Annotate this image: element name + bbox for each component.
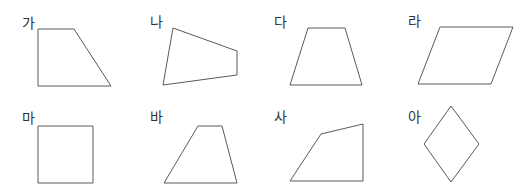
figure-a-rhombus [424,106,479,182]
figure-ma-square [38,126,93,183]
figure-label-sa: 사 [274,110,287,124]
figure-da-trapezoid [290,28,362,85]
figure-label-ma: 마 [22,111,35,125]
figure-ga-trapezoid [38,29,111,86]
figure-label-na: 나 [150,15,163,29]
figure-ra-parallelogram [418,27,513,84]
figure-na-quadrilateral [163,28,237,85]
figure-label-da: 다 [274,15,287,29]
figure-sa-quadrilateral [290,124,363,181]
figure-label-ra: 라 [408,14,421,28]
figure-label-a: 아 [408,110,421,124]
figure-label-ga: 가 [22,16,35,30]
figure-ba-trapezoid [164,126,237,183]
figure-label-ba: 바 [150,110,163,124]
shape-diagram: 가 나 다 라 마 바 사 아 [0,0,526,188]
shapes-svg [0,0,526,188]
